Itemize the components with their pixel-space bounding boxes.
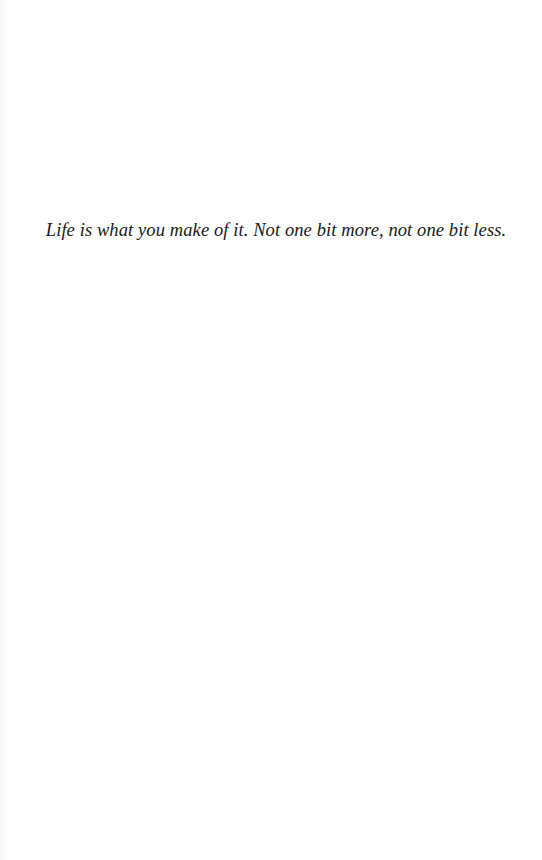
book-page: Life is what you make of it. Not one bit…: [0, 0, 542, 860]
epigraph-quote: Life is what you make of it. Not one bit…: [0, 218, 542, 242]
scan-shadow-edge: [0, 0, 10, 860]
